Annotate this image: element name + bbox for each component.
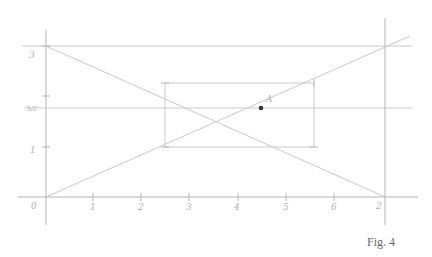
point-a <box>259 106 264 111</box>
y-label-1: 1 <box>30 145 36 155</box>
x-label-6: 6 <box>331 202 337 212</box>
y-label-three-halves: 3/2 <box>26 105 38 113</box>
figure-caption: Fig. 4 <box>367 235 395 250</box>
construction-diagram: A 3 3/2 1 0 1 2 3 4 5 6 2 <box>0 0 432 257</box>
point-a-label: A <box>265 94 273 104</box>
x-label-3: 3 <box>186 202 192 212</box>
x-label-4: 4 <box>233 202 240 212</box>
x-label-end: 2 <box>375 201 382 211</box>
x-label-origin: 0 <box>31 201 37 211</box>
x-label-1: 1 <box>90 202 96 212</box>
y-label-3: 3 <box>29 50 35 60</box>
construction-rectangle <box>165 83 314 147</box>
x-label-2: 2 <box>137 202 144 212</box>
ascending-diagonal <box>46 36 410 197</box>
x-label-5: 5 <box>283 202 289 212</box>
